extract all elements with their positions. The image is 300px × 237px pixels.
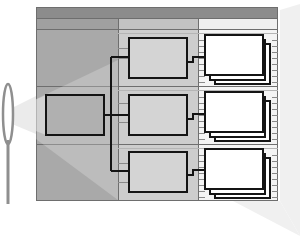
level-2-nodes xyxy=(129,38,187,192)
subheader-level-1 xyxy=(36,18,118,29)
subheader-level-2 xyxy=(118,18,198,29)
level-3-stack xyxy=(205,149,270,198)
level-2-node xyxy=(129,152,187,192)
header-bar xyxy=(36,7,278,18)
hierarchy-diagram xyxy=(0,0,300,237)
page-front xyxy=(205,149,263,189)
subheader-level-3 xyxy=(198,18,278,29)
page-front xyxy=(205,35,263,75)
level-3-stack xyxy=(205,92,270,141)
level-2-node xyxy=(129,95,187,135)
level-2-node xyxy=(129,38,187,78)
root-node xyxy=(46,95,104,135)
level-3-stack xyxy=(205,35,270,84)
page-front xyxy=(205,92,263,132)
lens-icon xyxy=(3,84,36,204)
